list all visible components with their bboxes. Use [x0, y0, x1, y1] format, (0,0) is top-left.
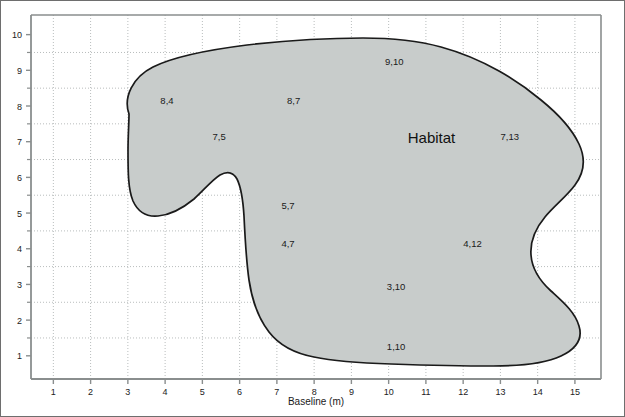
chart-figure: 12345678910111213141512345678910 8,48,77…	[0, 0, 625, 417]
y-tick-label: 6	[17, 173, 22, 183]
x-tick-label: 5	[200, 387, 205, 397]
point-annotation: 5,7	[281, 200, 294, 211]
point-annotation: 8,4	[160, 95, 173, 106]
x-tick-label: 14	[533, 387, 543, 397]
point-annotation: 3,10	[387, 281, 406, 292]
y-tick-label: 5	[17, 209, 22, 219]
y-tick-label: 8	[17, 102, 22, 112]
x-tick-label: 13	[495, 387, 505, 397]
x-tick-label: 12	[458, 387, 468, 397]
habitat-area-chart: 12345678910111213141512345678910 8,48,77…	[1, 1, 625, 417]
x-tick-label: 11	[421, 387, 430, 397]
x-tick-label: 6	[237, 387, 242, 397]
y-tick-label: 7	[17, 137, 22, 147]
point-annotation: 1,10	[387, 341, 406, 352]
x-axis-title: Baseline (m)	[288, 396, 344, 407]
point-annotation: 9,10	[385, 56, 404, 67]
point-annotation: 7,5	[213, 131, 226, 142]
point-annotation: 8,7	[287, 95, 300, 106]
y-tick-label: 3	[17, 280, 22, 290]
point-annotation: 4,12	[463, 238, 482, 249]
x-tick-label: 4	[163, 387, 168, 397]
y-tick-label: 4	[17, 244, 22, 254]
x-tick-label: 10	[384, 387, 394, 397]
point-annotation: 7,13	[500, 131, 519, 142]
habitat-region-label: Habitat	[408, 129, 456, 146]
habitat-region-shape	[127, 38, 583, 366]
y-tick-label: 1	[17, 351, 22, 361]
x-tick-label: 3	[125, 387, 130, 397]
point-annotation: 4,7	[281, 238, 294, 249]
y-tick-label: 2	[17, 316, 22, 326]
x-tick-label: 7	[274, 387, 279, 397]
x-tick-label: 9	[349, 387, 354, 397]
x-tick-label: 1	[51, 387, 56, 397]
x-tick-label: 15	[570, 387, 580, 397]
y-tick-label: 9	[17, 66, 22, 76]
y-tick-label: 10	[12, 30, 22, 40]
x-tick-label: 2	[88, 387, 93, 397]
